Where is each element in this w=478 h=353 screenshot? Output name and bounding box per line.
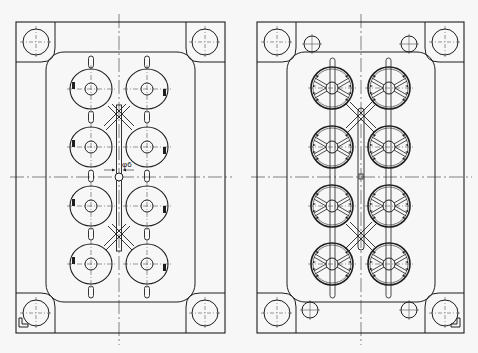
bolt-hole-icon: [429, 26, 461, 58]
guide-pin-icon: [302, 34, 322, 54]
bolt-hole-icon: [261, 26, 293, 58]
mold-plate-view-left: φ6: [10, 14, 232, 345]
cavity: [365, 185, 413, 227]
bolt-hole-icon: [261, 297, 293, 329]
cavity: [308, 126, 356, 168]
mold-drawing-canvas: φ6: [0, 0, 478, 353]
guide-pin-icon: [300, 300, 320, 320]
guide-pin-icon: [399, 300, 419, 320]
sprue-gate: [115, 173, 123, 181]
cavity: [308, 243, 356, 285]
mold-plate-view-right: [251, 14, 472, 345]
cavity-feed-runners: [330, 58, 391, 298]
cavity: [308, 67, 356, 109]
bolt-hole-icon: [189, 26, 221, 58]
cavity: [365, 67, 413, 109]
corner-marker-icon: [451, 318, 460, 327]
bolt-hole-icon: [20, 26, 52, 58]
bolt-hole-icon: [189, 297, 221, 329]
dimension-label: φ6: [122, 160, 132, 169]
cavity: [308, 185, 356, 227]
guide-pin-icon: [399, 34, 419, 54]
cavity-grid-right: [308, 67, 413, 285]
cavity: [365, 243, 413, 285]
cavity: [365, 126, 413, 168]
outer-plate-frame: [257, 22, 464, 333]
